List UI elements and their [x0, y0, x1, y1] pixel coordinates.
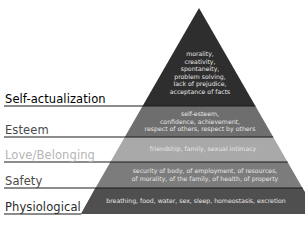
line: security of body, of employment, of reso… — [132, 167, 279, 175]
text-safety: security of body, of employment, of reso… — [132, 167, 279, 182]
text-love-belonging: friendship, family, sexual intimacy — [150, 145, 257, 153]
line: friendship, family, sexual intimacy — [150, 145, 257, 153]
label-esteem: Esteem — [5, 123, 49, 137]
line: lack of prejudice, — [170, 80, 231, 88]
line: acceptance of facts — [170, 88, 231, 96]
label-love-belonging: Love/Belonging — [5, 148, 95, 162]
line: breathing, food, water, sex, sleep, home… — [106, 197, 285, 205]
line: morality, — [170, 50, 231, 58]
line: creativity, — [170, 58, 231, 66]
text-esteem: self-esteem, confidence, achievement, re… — [145, 110, 256, 133]
text-physiological: breathing, food, water, sex, sleep, home… — [106, 197, 285, 205]
line: respect of others, respect by others — [145, 125, 256, 133]
line: self-esteem, — [145, 110, 256, 118]
line: confidence, achievement, — [145, 118, 256, 126]
label-physiological: Physiological — [5, 200, 81, 214]
label-self-actualization: Self-actualization — [5, 92, 106, 106]
line: problem solving, — [170, 73, 231, 81]
line: of morality, of the family, of health, o… — [132, 175, 279, 183]
line: spontaneity, — [170, 65, 231, 73]
label-safety: Safety — [5, 174, 42, 188]
text-self-actualization: morality, creativity, spontaneity, probl… — [170, 50, 231, 96]
